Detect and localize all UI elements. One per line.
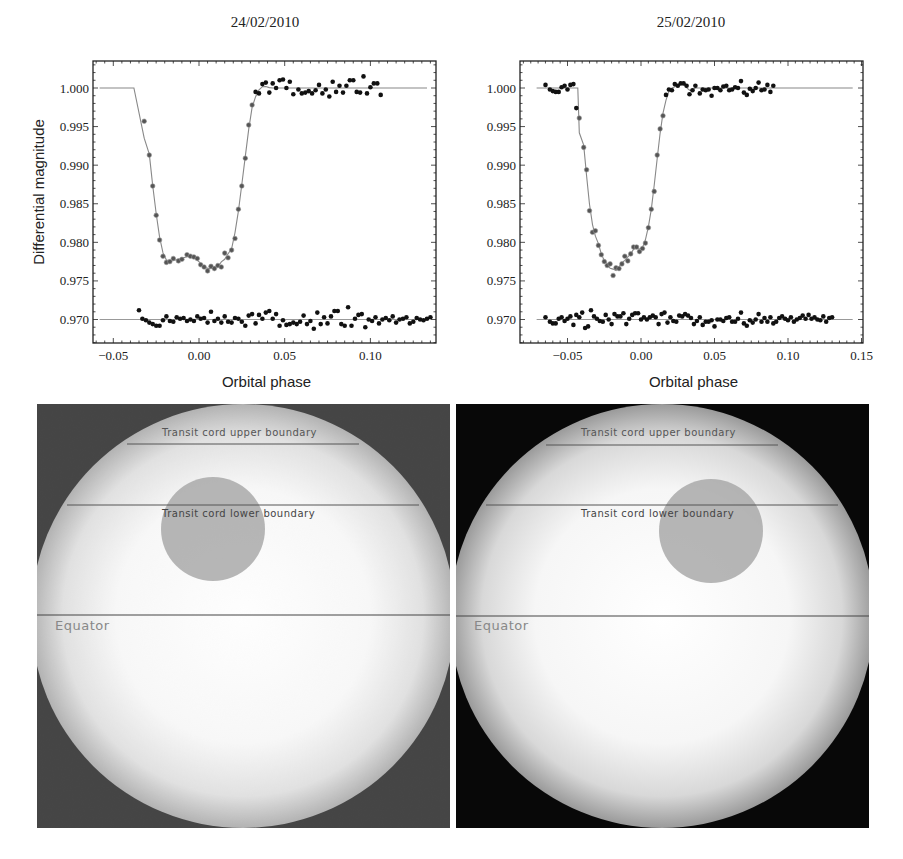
data-point [581, 145, 586, 150]
residual-point [609, 322, 614, 327]
y-tick-label: 1.000 [60, 81, 89, 96]
data-point [768, 90, 773, 95]
chart-title: 25/02/2010 [657, 14, 725, 30]
transit-cord-upper-label: Transit cord upper boundary [581, 427, 736, 438]
data-point [771, 83, 776, 88]
data-point [765, 83, 770, 88]
y-tick-label: 0.970 [487, 312, 516, 327]
data-point [718, 88, 723, 93]
y-tick-label: 0.990 [487, 158, 516, 173]
residual-point [394, 320, 399, 325]
residual-point [818, 318, 823, 323]
residual-point [336, 309, 341, 314]
data-point [368, 85, 373, 90]
data-point [205, 269, 210, 274]
residual-point [824, 320, 829, 325]
data-point [226, 255, 231, 260]
data-point [288, 80, 293, 85]
model-fit-line [537, 84, 853, 271]
residual-point [803, 316, 808, 321]
residual-point [656, 322, 661, 327]
data-point [320, 91, 325, 96]
residual-point [161, 318, 166, 323]
residual-point [390, 314, 395, 319]
y-tick-label: 0.990 [60, 158, 89, 173]
data-point [649, 207, 654, 212]
data-point [724, 83, 729, 88]
residual-point [373, 315, 378, 320]
data-point [341, 90, 346, 95]
residual-point [216, 316, 221, 321]
residual-point [762, 316, 767, 321]
residual-point [624, 322, 629, 327]
residual-point [712, 324, 717, 329]
data-point [161, 254, 166, 259]
data-point [658, 127, 663, 132]
y-tick-label: 0.995 [487, 119, 516, 134]
residual-point [267, 309, 272, 314]
residual-point [236, 316, 241, 321]
residual-point [774, 320, 779, 325]
data-point [378, 93, 383, 98]
y-tick-label: 0.985 [60, 196, 89, 211]
data-point [317, 83, 322, 88]
residual-point [745, 323, 750, 328]
data-point [698, 91, 703, 96]
residual-point [243, 323, 248, 328]
residual-point [577, 315, 582, 320]
residual-point [553, 321, 558, 326]
residual-point [346, 305, 351, 310]
residual-point [411, 320, 416, 325]
data-point [584, 168, 589, 173]
data-point [626, 259, 631, 264]
y-tick-label: 0.980 [487, 235, 516, 250]
data-point [670, 88, 675, 93]
residual-point [759, 320, 764, 325]
data-point [646, 225, 651, 230]
data-point [150, 184, 155, 189]
stellar-disk-panel-25-02-2010: Transit cord upper boundary Transit cord… [456, 404, 869, 828]
residual-point [627, 316, 632, 321]
residual-point [253, 321, 258, 326]
starspot [161, 477, 265, 581]
residual-point [301, 313, 306, 318]
residual-point [727, 315, 732, 320]
data-point [571, 82, 576, 87]
residual-point [342, 323, 347, 328]
residual-point [240, 320, 245, 325]
data-point [195, 256, 200, 261]
x-axis-label: Orbital phase [649, 373, 738, 390]
data-point [652, 189, 657, 194]
data-point [706, 87, 711, 92]
data-point [608, 262, 613, 267]
residual-point [137, 308, 142, 313]
data-point [620, 262, 625, 267]
residual-point [580, 310, 585, 315]
plot-frame [520, 61, 863, 343]
residual-point [821, 314, 826, 319]
residual-point [789, 315, 794, 320]
data-point [257, 91, 262, 96]
residual-point [768, 315, 773, 320]
residual-point [377, 321, 382, 326]
data-point [661, 114, 666, 119]
y-axis-label: Differential magnitude [30, 119, 47, 265]
data-point [327, 94, 332, 99]
data-point [147, 153, 152, 158]
data-point [365, 91, 370, 96]
residual-point [312, 327, 317, 332]
residual-point [621, 311, 626, 316]
residual-point [736, 316, 741, 321]
data-point [556, 90, 561, 95]
model-fit-line [100, 87, 427, 269]
starspot [659, 479, 763, 583]
data-point [180, 257, 185, 262]
residual-point [305, 322, 310, 327]
light-curve-chart-25-02-2010: 25/02/2010−0.050.000.050.100.151.0000.99… [487, 14, 873, 390]
data-point [222, 251, 227, 256]
residual-point [559, 315, 564, 320]
residual-point [219, 320, 224, 325]
data-point [334, 90, 339, 95]
data-point [375, 81, 380, 86]
residual-point [257, 313, 262, 318]
